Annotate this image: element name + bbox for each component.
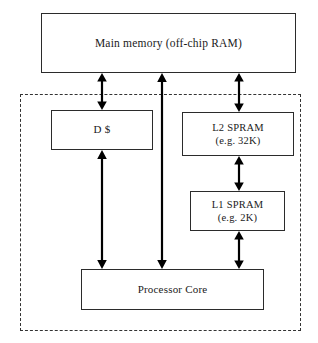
connector-main-memory-to-l2-spram [231, 73, 247, 112]
block-processor-core: Processor Core [81, 269, 264, 310]
block-l1-spram-size: (e.g. 2K) [218, 211, 257, 224]
block-main-memory-label: Main memory (off-chip RAM) [95, 36, 242, 50]
block-l1-spram-label: L1 SPRAM [212, 198, 264, 211]
block-processor-core-label: Processor Core [138, 283, 208, 297]
connector-l2-spram-to-l1-spram [231, 156, 247, 191]
block-l2-spram: L2 SPRAM (e.g. 32K) [182, 112, 294, 156]
block-l2-spram-label: L2 SPRAM [212, 121, 264, 134]
block-dcache-label: D $ [94, 123, 111, 137]
connector-main-memory-to-processor-core [154, 73, 170, 269]
connector-main-memory-to-dcache [94, 73, 110, 110]
memory-hierarchy-diagram: Main memory (off-chip RAM) D $ L2 SPRAM … [0, 0, 318, 343]
connector-dcache-to-processor-core [94, 150, 110, 269]
connector-l1-spram-to-processor-core [231, 231, 247, 269]
block-l2-spram-size: (e.g. 32K) [216, 134, 261, 147]
block-l1-spram: L1 SPRAM (e.g. 2K) [190, 191, 285, 231]
block-main-memory: Main memory (off-chip RAM) [41, 13, 296, 73]
block-dcache: D $ [51, 110, 153, 150]
